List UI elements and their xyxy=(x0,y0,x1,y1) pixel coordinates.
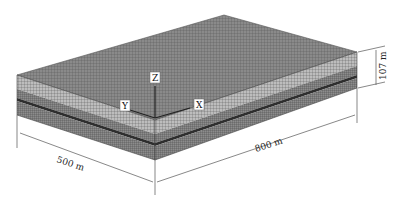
y-axis-label: Y xyxy=(121,101,129,111)
height-dimension-label: 107 m xyxy=(378,51,388,80)
length-dimension-label: 800 m xyxy=(254,135,285,153)
z-axis-label: Z xyxy=(152,73,158,83)
width-dimension-label: 500 m xyxy=(55,154,86,172)
mesh-diagram: Z Y X 500 m 800 m 107 m xyxy=(0,0,396,209)
x-axis-label: X xyxy=(196,100,203,110)
